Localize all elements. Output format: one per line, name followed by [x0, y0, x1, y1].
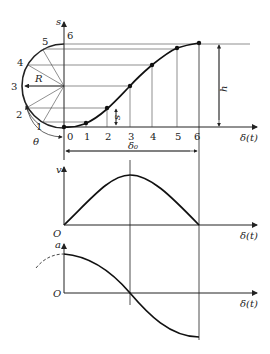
delta-axis-label: δ(t)	[240, 132, 258, 143]
v-delta-label: δ(t)	[240, 230, 258, 241]
v-origin-label: O	[53, 228, 61, 239]
projection-lines	[28, 44, 250, 122]
curve-points	[62, 41, 201, 129]
circle-label-3: 3	[11, 81, 17, 92]
a-origin-label: O	[53, 288, 61, 299]
circle-label-1: 1	[36, 121, 42, 132]
tick-6: 6	[194, 131, 200, 142]
span-label: δ₀	[128, 140, 138, 151]
tick-1: 1	[84, 131, 90, 142]
cam-motion-diagram: s 6 5 4 3 2 1 R θ 0 1 2 3 4 5 6 δ₀ δ(t) …	[0, 0, 270, 354]
circle-label-6: 6	[67, 30, 73, 41]
circle-label-2: 2	[16, 109, 22, 120]
velocity-plot: v O δ(t)	[53, 160, 258, 305]
tick-4: 4	[150, 131, 156, 142]
tick-5: 5	[175, 131, 181, 142]
radius-label: R	[34, 73, 43, 84]
tick-2: 2	[105, 131, 111, 142]
a-delta-label: δ(t)	[240, 298, 258, 309]
velocity-curve	[64, 175, 199, 225]
circle-label-4: 4	[17, 57, 23, 68]
s-axis-label: s	[56, 16, 61, 27]
displacement-label: s	[111, 115, 122, 120]
a-axis-label: a	[55, 239, 61, 250]
tick-0: 0	[67, 131, 73, 142]
v-axis-label: v	[56, 164, 62, 175]
acceleration-curve	[64, 254, 199, 337]
acceleration-dashed-extension	[36, 254, 64, 268]
acceleration-plot: a O δ(t)	[36, 239, 258, 337]
displacement-plot: s 6 5 4 3 2 1 R θ 0 1 2 3 4 5 6 δ₀ δ(t) …	[11, 16, 258, 340]
height-label: h	[218, 86, 229, 92]
theta-label: θ	[33, 136, 39, 147]
circle-label-5: 5	[42, 36, 48, 47]
